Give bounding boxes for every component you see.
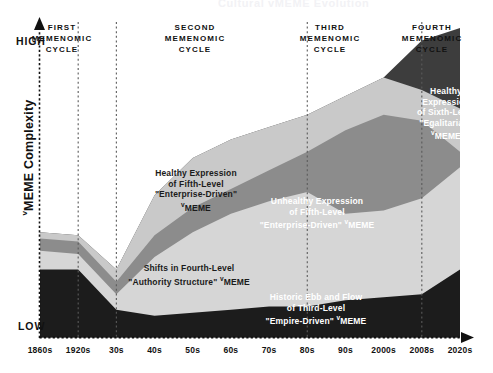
y-axis-title-text: MEME Complexity (22, 100, 36, 211)
cycle-label-line: MEMENOMIC (285, 33, 375, 44)
x-tick-2020s: 2020s (436, 345, 484, 355)
vmeme-prefix: ᴠ (181, 201, 185, 208)
cycle-label-line: FIRST (17, 22, 107, 33)
area-label-line: of Sixth-Level (406, 107, 486, 118)
cycle-label-fourth: FOURTHMEMENOMICCYCLE (387, 22, 477, 55)
area-label-line: "Enterprise-Driven" ᴠMEME (243, 217, 391, 230)
area-label-line: Healthy (406, 86, 486, 97)
area-label-shifts-fourth: Shifts in Fourth-Level"Authority Structu… (125, 263, 253, 287)
vmeme-prefix: ᴠ (337, 314, 341, 321)
area-label-line: "Egalitarian" (406, 118, 486, 129)
area-label-healthy-fifth: Healthy Expressionof Fifth-Level"Enterpr… (137, 168, 255, 213)
area-label-line: ᴠMEME (137, 200, 255, 213)
chart-root: Cultural ᴠMEME Evolution ᴠMEME Complexit… (0, 0, 493, 373)
vmeme-prefix: ᴠ (431, 129, 435, 136)
cycle-label-line: CYCLE (387, 44, 477, 55)
area-label-line: Unhealthy Expression (243, 196, 391, 207)
area-label-line: Shifts in Fourth-Level (125, 263, 253, 274)
area-label-line: ᴠMEME (406, 128, 486, 141)
vmeme-prefix: ᴠ (344, 218, 348, 225)
area-label-line: "Empire-Driven" ᴠMEME (245, 313, 387, 326)
cycle-label-line: FOURTH (387, 22, 477, 33)
y-axis-low-label: LOW (18, 320, 45, 332)
cycle-label-line: CYCLE (17, 44, 107, 55)
area-label-line: Healthy Expression (137, 168, 255, 179)
area-label-historic-third: Historic Ebb and Flowof Third-Level"Empi… (245, 292, 387, 326)
y-axis-title-prefix: ᴠ (20, 211, 29, 216)
cycle-label-line: CYCLE (285, 44, 375, 55)
x-axis-arrowhead (461, 332, 474, 343)
cycle-label-third: THIRDMEMENOMICCYCLE (285, 22, 375, 55)
vmeme-prefix: ᴠ (220, 275, 224, 282)
cycle-label-line: THIRD (285, 22, 375, 33)
area-label-line: Expression (406, 97, 486, 108)
cycle-label-line: MEMENOMIC (150, 33, 240, 44)
cycle-label-first: FIRSTMEMENOMICCYCLE (17, 22, 107, 55)
area-label-line: Historic Ebb and Flow (245, 292, 387, 303)
area-label-line: "Authority Structure" ᴠMEME (125, 274, 253, 287)
y-axis-title: ᴠMEME Complexity (20, 73, 35, 243)
cycle-label-line: MEMENOMIC (17, 33, 107, 44)
cycle-label-second: SECONDMEMENOMICCYCLE (150, 22, 240, 55)
area-label-line: of Fifth-Level (137, 179, 255, 190)
area-label-line: of Fifth-Level (243, 207, 391, 218)
area-label-unhealthy-fifth: Unhealthy Expressionof Fifth-Level"Enter… (243, 196, 391, 230)
cycle-label-line: CYCLE (150, 44, 240, 55)
area-label-healthy-sixth: HealthyExpressionof Sixth-Level"Egalitar… (406, 86, 486, 141)
cycle-label-line: MEMENOMIC (387, 33, 477, 44)
area-label-line: of Third-Level (245, 303, 387, 314)
cycle-label-line: SECOND (150, 22, 240, 33)
area-label-line: "Enterprise-Driven" (137, 189, 255, 200)
